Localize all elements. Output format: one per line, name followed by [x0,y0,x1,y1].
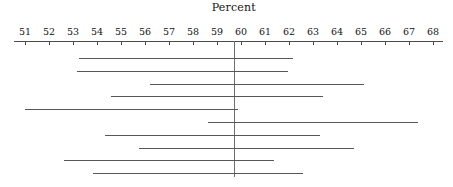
x-axis-tick-label: 52 [43,27,55,37]
x-axis-tick [73,41,74,45]
x-axis-tick [97,41,98,45]
interval-segment [111,96,323,97]
x-axis-tick-label: 68 [427,27,439,37]
interval-segment [64,160,274,161]
x-axis-tick [289,41,290,45]
x-axis-tick-label: 54 [91,27,103,37]
x-axis-tick-label: 57 [163,27,175,37]
x-axis-tick [25,41,26,45]
x-axis-tick-label: 64 [331,27,343,37]
x-axis-line [14,41,443,42]
x-axis-tick-label: 62 [283,27,295,37]
interval-segment [79,58,293,59]
x-axis-tick [217,41,218,45]
x-axis-tick-label: 61 [259,27,271,37]
x-axis-tick [361,41,362,45]
x-axis-tick [241,41,242,45]
x-axis-tick [169,41,170,45]
x-axis-tick-label: 51 [19,27,31,37]
x-axis-tick-label: 56 [139,27,151,37]
interval-segment [93,173,303,174]
x-axis-tick-label: 65 [355,27,367,37]
x-axis-tick-label: 67 [403,27,415,37]
interval-segment [77,71,288,72]
x-axis-tick-label: 58 [187,27,199,37]
x-axis-tick [193,41,194,45]
interval-segment [105,135,320,136]
x-axis-tick-label: 63 [307,27,319,37]
interval-segment [139,148,354,149]
x-axis-tick [385,41,386,45]
chart-title-text: Percent [212,1,256,14]
x-axis-tick [433,41,434,45]
interval-segment [25,109,238,110]
x-axis-tick [121,41,122,45]
x-axis-tick [49,41,50,45]
x-axis-tick-label: 55 [115,27,127,37]
percent-interval-plot: Percent 51525354555657585960616263646566… [0,0,453,187]
x-axis-tick-label: 59 [211,27,223,37]
x-axis-tick [145,41,146,45]
x-axis-tick-label: 53 [67,27,79,37]
interval-segment [150,84,364,85]
x-axis-tick-label: 60 [235,27,247,37]
x-axis-tick-label: 66 [379,27,391,37]
interval-segment [208,122,418,123]
x-axis-tick [337,41,338,45]
x-axis-tick [265,41,266,45]
chart-title: Percent [0,1,453,14]
x-axis-tick [313,41,314,45]
x-axis-tick [409,41,410,45]
